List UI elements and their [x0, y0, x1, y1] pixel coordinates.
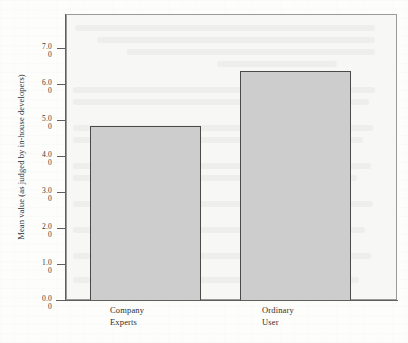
y-axis-line — [65, 14, 66, 301]
y-tick-mark — [57, 192, 66, 193]
y-tick-mark — [57, 84, 66, 85]
x-tick-label-ordinary-user: Ordinary User — [262, 305, 408, 328]
x-tick-label-company-experts: Company Experts — [110, 305, 260, 328]
y-tick-mark — [57, 156, 66, 157]
x-axis-line — [56, 300, 398, 301]
bar-ordinary-user — [240, 71, 351, 301]
scanned-page: 7.0 0 6.0 0 5.0 0 4.0 0 3.0 0 2.0 0 1.0 … — [0, 0, 408, 343]
bar-company-experts — [90, 126, 201, 301]
y-tick-mark — [57, 264, 66, 265]
y-tick-mark — [57, 228, 66, 229]
y-axis-title: Mean value (as judged by in-house develo… — [14, 14, 28, 300]
y-tick-mark — [57, 48, 66, 49]
bar-chart: 7.0 0 6.0 0 5.0 0 4.0 0 3.0 0 2.0 0 1.0 … — [0, 0, 408, 343]
y-tick-mark — [57, 300, 66, 301]
y-tick-mark — [57, 120, 66, 121]
